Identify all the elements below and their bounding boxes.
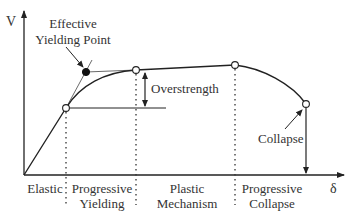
effective-yield-point [82,68,89,75]
y-axis-label: V [6,14,16,29]
region-mechanism-line2: Mechanism [157,196,218,211]
region-collapse-line1: Progressive [242,181,303,196]
peak-strength-point [232,62,239,69]
region-elastic-line1: Elastic [27,181,63,196]
x-axis-label: δ [330,181,337,196]
collapse-point [303,101,310,108]
region-collapse-line2: Collapse [249,196,295,211]
overstrength-label: Overstrength [151,81,219,96]
region-labels: Elastic Progressive Yielding Plastic Mec… [27,181,302,211]
mechanism-start-point [133,67,140,74]
bilinear-idealization [66,60,136,108]
first-yield-point [63,105,70,112]
collapse-pointer-arrow [285,110,302,129]
collapse-label: Collapse [258,131,304,146]
region-yielding-line1: Progressive [72,181,133,196]
effective-yield-label-line1: Effective [49,16,97,31]
effective-yield-label-line2: Yielding Point [35,32,111,47]
region-mechanism-line1: Plastic [170,181,205,196]
region-yielding-line2: Yielding [80,196,125,211]
effective-yield-pointer [66,47,83,67]
capacity-curve-diagram: V δ Overstrength Collapse Effective Yiel… [0,0,351,215]
